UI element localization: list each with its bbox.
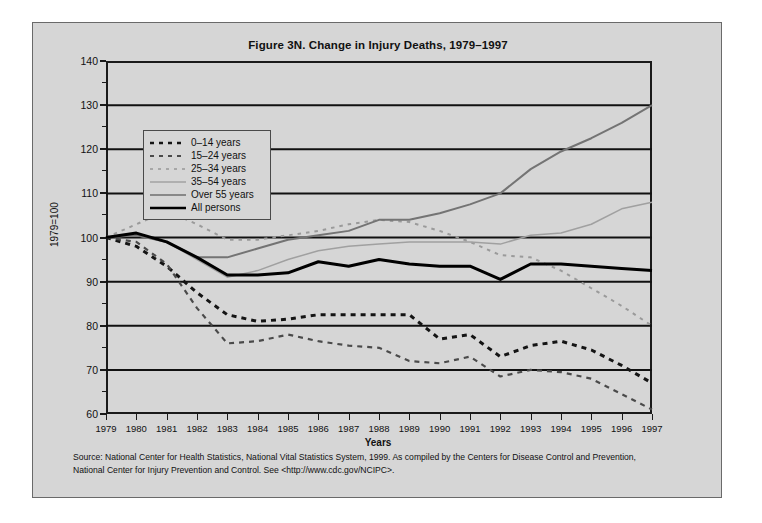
x-tick-label: 1987 — [338, 423, 359, 434]
legend-label: 15–24 years — [191, 150, 246, 161]
figure-frame: Figure 3N. Change in Injury Deaths, 1979… — [32, 22, 722, 498]
x-tick-label: 1997 — [641, 423, 662, 434]
source-note-line-1: Source: National Center for Health Stati… — [73, 451, 698, 464]
x-tick-mark — [167, 414, 168, 420]
x-tick-mark — [652, 414, 653, 420]
legend-label: 35–54 years — [191, 176, 246, 187]
figure-page: Figure 3N. Change in Injury Deaths, 1979… — [0, 0, 762, 523]
x-tick-label: 1988 — [368, 423, 389, 434]
figure-title: Figure 3N. Change in Injury Deaths, 1979… — [33, 39, 723, 51]
x-tick-label: 1990 — [429, 423, 450, 434]
y-minor-tick — [102, 259, 106, 260]
legend-item: 0–14 years — [149, 136, 264, 149]
source-note-line-2: National Center for Injury Prevention an… — [73, 464, 698, 477]
legend-item: All persons — [149, 201, 264, 214]
x-tick-mark — [531, 414, 532, 420]
y-tick-mark — [100, 192, 106, 194]
y-minor-tick — [102, 303, 106, 304]
legend-swatch-all-persons-icon — [149, 202, 187, 214]
legend-swatch-35-54-icon — [149, 176, 187, 188]
x-tick-label: 1979 — [95, 423, 116, 434]
x-tick-label: 1992 — [490, 423, 511, 434]
legend-swatch-0-14-icon — [149, 137, 187, 149]
source-note: Source: National Center for Health Stati… — [73, 451, 698, 476]
series-line — [106, 233, 652, 279]
x-tick-mark — [470, 414, 471, 420]
legend-swatch-15-24-icon — [149, 150, 187, 162]
x-tick-mark — [106, 414, 107, 420]
x-tick-mark — [409, 414, 410, 420]
x-tick-label: 1996 — [611, 423, 632, 434]
x-tick-mark — [136, 414, 137, 420]
series-lines — [106, 61, 652, 414]
x-tick-mark — [227, 414, 228, 420]
x-tick-mark — [500, 414, 501, 420]
y-tick-mark — [100, 281, 106, 283]
x-tick-mark — [622, 414, 623, 420]
x-tick-label: 1985 — [277, 423, 298, 434]
legend-label: Over 55 years — [191, 189, 254, 200]
x-tick-label: 1989 — [399, 423, 420, 434]
x-tick-label: 1993 — [520, 423, 541, 434]
legend-item: 35–54 years — [149, 175, 264, 188]
x-tick-label: 1983 — [217, 423, 238, 434]
y-axis-label: 1979=100 — [49, 202, 60, 247]
x-tick-label: 1986 — [308, 423, 329, 434]
chart-legend: 0–14 years 15–24 years 25–34 years 35–54… — [143, 130, 271, 220]
y-minor-tick — [102, 126, 106, 127]
y-tick-mark — [100, 237, 106, 239]
x-tick-mark — [258, 414, 259, 420]
legend-label: 0–14 years — [191, 137, 240, 148]
legend-label: 25–34 years — [191, 163, 246, 174]
x-tick-label: 1982 — [186, 423, 207, 434]
x-tick-mark — [349, 414, 350, 420]
legend-swatch-25-34-icon — [149, 163, 187, 175]
x-tick-mark — [288, 414, 289, 420]
x-axis-label: Years — [33, 437, 723, 448]
x-tick-label: 1984 — [247, 423, 268, 434]
y-tick-mark — [100, 369, 106, 371]
x-tick-label: 1981 — [156, 423, 177, 434]
y-tick-mark — [100, 104, 106, 106]
x-tick-mark — [561, 414, 562, 420]
legend-item: Over 55 years — [149, 188, 264, 201]
x-tick-label: 1980 — [126, 423, 147, 434]
x-tick-label: 1995 — [581, 423, 602, 434]
legend-swatch-over-55-icon — [149, 189, 187, 201]
legend-item: 15–24 years — [149, 149, 264, 162]
y-minor-tick — [102, 347, 106, 348]
legend-label: All persons — [191, 202, 240, 213]
y-tick-mark — [100, 60, 106, 62]
y-tick-mark — [100, 148, 106, 150]
x-tick-mark — [318, 414, 319, 420]
y-minor-tick — [102, 170, 106, 171]
y-minor-tick — [102, 391, 106, 392]
y-minor-tick — [102, 82, 106, 83]
x-tick-mark — [197, 414, 198, 420]
series-line — [106, 211, 652, 326]
y-tick-mark — [100, 325, 106, 327]
y-minor-tick — [102, 214, 106, 215]
x-tick-mark — [440, 414, 441, 420]
x-tick-label: 1991 — [459, 423, 480, 434]
x-tick-label: 1994 — [550, 423, 571, 434]
x-tick-mark — [379, 414, 380, 420]
legend-item: 25–34 years — [149, 162, 264, 175]
x-tick-mark — [591, 414, 592, 420]
plot-area: 60708090100110120130140 1979198019811982… — [106, 61, 652, 414]
